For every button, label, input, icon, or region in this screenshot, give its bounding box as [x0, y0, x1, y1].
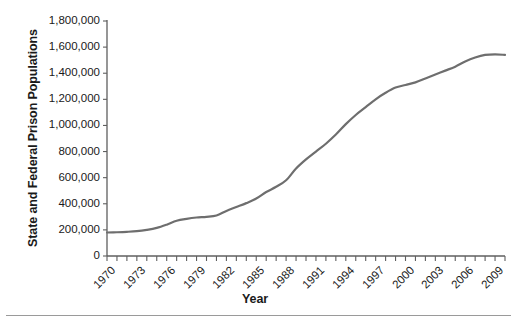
x-tick-label: 1979: [173, 264, 207, 298]
x-tick-label: 1976: [143, 264, 177, 298]
footer-divider: [6, 315, 511, 316]
x-tick-label: 2009: [472, 264, 506, 298]
x-tick-label: 1997: [352, 264, 386, 298]
x-tick-label: 1973: [113, 264, 147, 298]
prison-population-line-chart: State and Federal Prison Populations 020…: [0, 0, 517, 327]
x-tick-label: 1970: [84, 264, 118, 298]
x-tick-label: 1994: [322, 264, 356, 298]
x-tick-label: 2006: [442, 264, 476, 298]
x-tick-label: 2000: [382, 264, 416, 298]
x-axis-title: Year: [205, 292, 305, 306]
x-axis-tick-labels: 1970197319761979198219851988199119941997…: [0, 0, 517, 327]
x-tick-label: 2003: [412, 264, 446, 298]
